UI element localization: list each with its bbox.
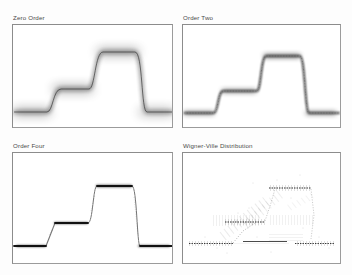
plot-zero-order bbox=[13, 25, 173, 128]
plot-order-four bbox=[13, 153, 173, 264]
figure-canvas: Zero Order bbox=[0, 0, 352, 275]
trace-sidelobes-order-four bbox=[49, 195, 138, 235]
panel-title-zero-order: Zero Order bbox=[13, 14, 45, 22]
cross-terms-wigner bbox=[213, 189, 314, 246]
panel-title-order-two: Order Two bbox=[183, 14, 213, 22]
axes-wigner-ville bbox=[182, 152, 341, 264]
plot-wigner-ville bbox=[183, 153, 341, 264]
panel-order-two: Order Two bbox=[182, 14, 341, 132]
trace-ridge-order-four bbox=[14, 186, 172, 246]
axes-zero-order bbox=[12, 24, 173, 128]
panel-title-wigner-ville: Wigner-Ville Distribution bbox=[183, 142, 253, 150]
axes-order-four bbox=[12, 152, 173, 264]
panel-order-four: Order Four bbox=[12, 142, 173, 268]
trace-smear-order-four bbox=[17, 186, 169, 246]
panel-zero-order: Zero Order bbox=[12, 14, 173, 132]
trace-ridge-zero bbox=[14, 52, 173, 112]
trace-transitions-order-four bbox=[46, 186, 140, 246]
plot-order-two bbox=[183, 25, 341, 128]
panel-title-order-four: Order Four bbox=[13, 142, 45, 150]
axes-order-two bbox=[182, 24, 341, 128]
panel-wigner-ville: Wigner-Ville Distribution bbox=[182, 142, 341, 268]
trace-ridge-order-two bbox=[184, 56, 340, 113]
